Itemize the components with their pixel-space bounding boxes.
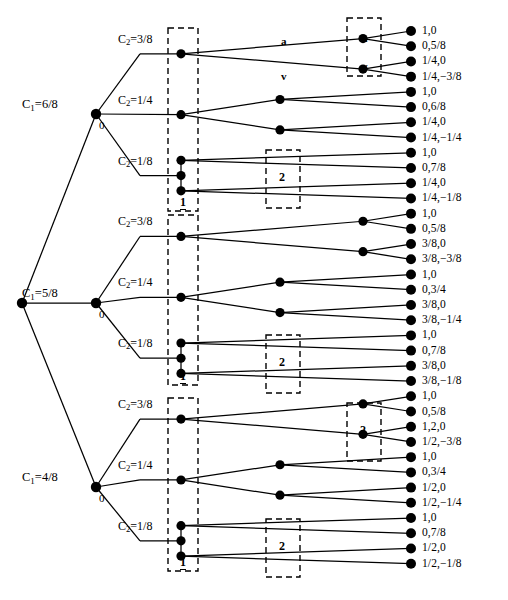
edge-leaf-33 (181, 526, 411, 534)
edge-leaf-29 (280, 465, 411, 473)
edge-c1-to-c2-3 (96, 236, 140, 303)
payoff-label-32: 1,0 (422, 512, 437, 524)
payoff-label-17: 0,3/4 (422, 284, 446, 296)
edge-leaf-18 (280, 305, 411, 313)
c2-label-3: C2=3/8 (118, 215, 152, 229)
payoff-label-24: 1,0 (422, 390, 437, 402)
c1-zero-label-0: 0 (99, 120, 105, 131)
terminal-node-23 (406, 376, 416, 386)
terminal-node-8 (406, 148, 416, 158)
edge-leaf-23 (181, 373, 411, 381)
payoff-label-7: 1/4,−1/4 (422, 132, 462, 144)
terminal-node-16 (406, 270, 416, 280)
c2-label-6: C2=3/8 (118, 398, 152, 412)
edge-p1-action-down-1 (181, 115, 280, 130)
payoff-label-11: 1/4,−1/8 (422, 192, 462, 204)
edge-leaf-0 (363, 31, 411, 39)
edge-leaf-27 (363, 434, 411, 442)
edge-leaf-35 (181, 556, 411, 564)
edge-leaf-11 (181, 191, 411, 199)
terminal-node-33 (406, 528, 416, 538)
iset-1-bottom (168, 398, 198, 571)
edge-p1-action-down-4 (181, 297, 280, 312)
terminal-node-3 (406, 72, 416, 82)
terminal-node-34 (406, 543, 416, 553)
payoff-label-1: 0,5/8 (422, 40, 446, 52)
iset-label-0: 1 (180, 196, 186, 210)
edge-leaf-8 (181, 153, 411, 161)
edge-root-to-c1-2 (22, 303, 96, 487)
edge-leaf-12 (363, 214, 411, 222)
terminal-node-25 (406, 407, 416, 417)
c2-label-0: C2=3/8 (118, 33, 152, 47)
payoff-label-2: 1/4,0 (422, 55, 446, 67)
iset-label-5: 2 (279, 540, 285, 552)
edge-leaf-19 (280, 313, 411, 321)
terminal-node-7 (406, 133, 416, 143)
payoff-label-3: 1/4,−3/8 (422, 71, 462, 83)
edge-p1-action-up-7 (181, 465, 280, 480)
payoff-label-19: 3/8,−1/4 (422, 314, 462, 326)
c2-label-2: C2=1/8 (118, 155, 152, 169)
edge-leaf-30 (280, 488, 411, 496)
payoff-label-34: 1/2,0 (422, 542, 446, 554)
terminal-node-21 (406, 346, 416, 356)
edge-leaf-2 (363, 61, 411, 69)
payoff-label-33: 0,7/8 (422, 527, 446, 539)
payoff-label-5: 0,6/8 (422, 101, 446, 113)
edge-p1-action-up-4 (181, 282, 280, 297)
iset-label-2: 1 (180, 556, 186, 570)
terminal-node-1 (406, 41, 416, 51)
figure-caption (0, 588, 508, 600)
edge-leaf-13 (363, 221, 411, 229)
payoff-label-30: 1/2,0 (422, 482, 446, 494)
payoff-label-35: 1/2,−1/8 (422, 558, 462, 570)
edge-leaf-5 (280, 99, 411, 107)
edge-c1-to-c2-1 (96, 114, 181, 115)
payoff-label-12: 1,0 (422, 208, 437, 220)
edge-p1-action-down-6 (181, 419, 363, 434)
edge-leaf-34 (181, 548, 411, 556)
terminal-node-24 (406, 391, 416, 401)
edge-leaf-15 (363, 252, 411, 260)
terminal-node-18 (406, 300, 416, 310)
terminal-node-17 (406, 285, 416, 295)
payoff-label-29: 0,3/4 (422, 466, 446, 478)
payoff-label-25: 0,5/8 (422, 406, 446, 418)
edge-c1-to-c2-4 (96, 297, 140, 303)
payoff-label-15: 3/8,−3/8 (422, 253, 462, 265)
payoff-label-14: 3/8,0 (422, 238, 446, 250)
payoff-label-22: 3/8,0 (422, 360, 446, 372)
terminal-node-30 (406, 483, 416, 493)
edge-root-to-c1-0 (22, 114, 96, 303)
payoff-label-4: 1,0 (422, 86, 437, 98)
terminal-node-28 (406, 452, 416, 462)
payoff-label-13: 0,5/8 (422, 223, 446, 235)
c1-zero-label-1: 0 (99, 309, 105, 320)
edge-c1-to-c2-7 (96, 480, 140, 487)
edge-leaf-26 (363, 427, 411, 435)
terminal-node-9 (406, 163, 416, 173)
terminal-node-27 (406, 437, 416, 447)
payoff-label-0: 1,0 (422, 25, 437, 37)
payoff-label-18: 3/8,0 (422, 299, 446, 311)
edge-leaf-22 (181, 366, 411, 374)
terminal-node-22 (406, 361, 416, 371)
terminal-node-20 (406, 330, 416, 340)
c2-label-4: C2=1/4 (118, 276, 152, 290)
iset-label-3: 2 (279, 171, 285, 183)
edge-leaf-31 (280, 495, 411, 503)
edge-leaf-14 (363, 244, 411, 252)
terminal-node-12 (406, 209, 416, 219)
edge-leaf-9 (181, 160, 411, 168)
edge-leaf-20 (181, 335, 411, 343)
c1-node-0 (91, 109, 101, 119)
payoff-label-27: 1/2,−3/8 (422, 436, 462, 448)
payoff-label-6: 1/4,0 (422, 116, 446, 128)
terminal-node-2 (406, 56, 416, 66)
payoff-label-26: 1,2,0 (422, 421, 446, 433)
terminal-node-0 (406, 26, 416, 36)
payoff-label-21: 0,7/8 (422, 345, 446, 357)
edge-p1-action-down-0 (181, 54, 363, 69)
c1-node-1 (91, 298, 101, 308)
